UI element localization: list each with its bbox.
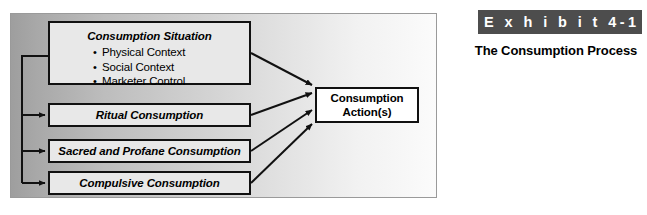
node-consumption-action: Consumption Action(s): [315, 87, 419, 123]
list-item: Social Context: [93, 60, 249, 75]
exhibit-caption-block: E x h i b i t 4-1 The Consumption Proces…: [470, 10, 642, 58]
node-sacred-and-profane-consumption-title: Sacred and Profane Consumption: [50, 144, 249, 158]
node-consumption-situation: Consumption Situation Physical Context S…: [48, 21, 251, 85]
exhibit-label-text: E x h i b i t 4-1: [481, 14, 640, 30]
exhibit-title: The Consumption Process: [470, 43, 642, 58]
node-consumption-action-line1: Consumption: [331, 91, 404, 106]
node-consumption-action-line2: Action(s): [343, 105, 392, 120]
node-ritual-consumption-title: Ritual Consumption: [50, 108, 249, 122]
node-sacred-and-profane-consumption: Sacred and Profane Consumption: [48, 139, 251, 163]
node-consumption-situation-title: Consumption Situation: [50, 29, 249, 43]
node-compulsive-consumption: Compulsive Consumption: [48, 171, 251, 195]
exhibit-label-bar: E x h i b i t 4-1: [478, 10, 642, 34]
consumption-situation-bullets: Physical Context Social Context Marketer…: [50, 45, 249, 89]
list-item: Marketer Control: [93, 74, 249, 89]
node-compulsive-consumption-title: Compulsive Consumption: [50, 176, 249, 190]
exhibit-figure: Consumption Situation Physical Context S…: [0, 0, 647, 215]
node-ritual-consumption: Ritual Consumption: [48, 103, 251, 127]
list-item: Physical Context: [93, 45, 249, 60]
